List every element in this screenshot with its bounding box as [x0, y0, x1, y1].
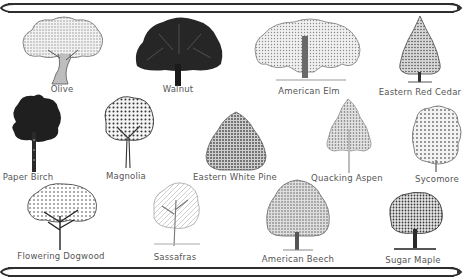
- tree-label: Eastern Red Cedar: [379, 87, 462, 97]
- american-beech-tree-illustration: [263, 180, 333, 254]
- tree-label: American Beech: [262, 254, 334, 264]
- magnolia-tree-illustration: [100, 94, 156, 170]
- bottom-right-scroll-ornament-icon: [448, 264, 462, 280]
- tree-label: Sugar Maple: [385, 255, 440, 265]
- top-left-scroll-ornament-icon: [0, 0, 14, 16]
- sycomore-tree-illustration: [408, 104, 464, 174]
- flowering-dogwood-tree-illustration: [24, 182, 100, 252]
- eastern-white-pine-tree-illustration: [204, 112, 268, 172]
- tree-label: Flowering Dogwood: [17, 251, 104, 261]
- sassafras-tree-illustration: [148, 180, 204, 252]
- bottom-border-line-outer: [8, 267, 454, 269]
- top-right-scroll-ornament-icon: [448, 0, 462, 16]
- sugar-maple-tree-illustration: [386, 191, 444, 253]
- top-border-line-outer: [8, 3, 454, 5]
- tree-label: Paper Birch: [3, 172, 54, 182]
- bottom-border-line-inner: [8, 275, 454, 277]
- tree-label: Magnolia: [106, 171, 146, 181]
- eastern-red-cedar-tree-illustration: [396, 16, 444, 86]
- tree-label: Walnut: [163, 84, 194, 94]
- paper-birch-tree-illustration: [8, 92, 64, 172]
- bottom-left-scroll-ornament-icon: [0, 264, 14, 280]
- tree-label: Sycomore: [415, 174, 459, 184]
- american-elm-tree-illustration: [252, 16, 364, 84]
- quacking-aspen-tree-illustration: [322, 99, 376, 173]
- tree-label: American Elm: [278, 86, 340, 96]
- top-border-line-inner: [8, 11, 454, 13]
- tree-label: Sassafras: [154, 252, 197, 262]
- walnut-tree-illustration: [133, 14, 225, 86]
- olive-tree-illustration: [18, 14, 106, 86]
